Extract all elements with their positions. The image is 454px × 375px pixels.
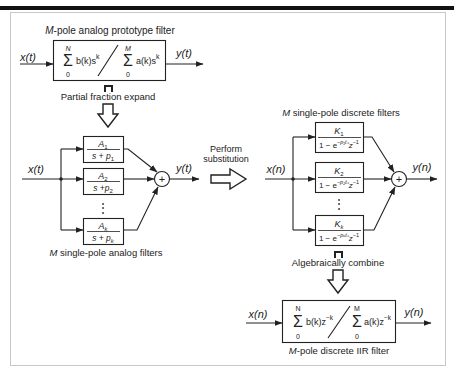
den-sum-upper: M (354, 305, 360, 312)
algebraic-combine-label: Algebraically combine (292, 257, 384, 268)
right-arrow-icon (211, 169, 246, 189)
num-sum-lower: 0 (296, 333, 300, 340)
num-sum-lower: 0 (66, 71, 70, 78)
analog-bank-caption: M single-pole analog filters (49, 247, 162, 258)
iir-caption: M-pole discrete IIR filter (289, 345, 389, 356)
analog-filter-bank: x(t) A1 s + p1 A2 s +p2 ⋮ Ak s + pk + y(… (22, 137, 199, 259)
sum-wire-k (363, 187, 395, 230)
partial-fraction-step: Partial fraction expand (61, 86, 156, 127)
den-sum-lower: 0 (355, 333, 359, 340)
iir-input-label: x(n) (248, 308, 268, 320)
sigma-icon: Σ (63, 52, 73, 69)
prototype-output-label: y(t) (175, 47, 192, 59)
discrete-output-label: y(n) (412, 161, 432, 173)
sum-wire-1 (123, 149, 157, 172)
prototype-input-label: x(t) (19, 51, 36, 63)
filter-design-diagram: M-pole analog prototype filter x(t) N Σ … (0, 0, 454, 375)
plus-icon: + (159, 173, 165, 185)
split-node (59, 177, 63, 181)
plus-icon: + (396, 173, 402, 185)
discrete-bank-title: M single-pole discrete filters (282, 107, 400, 118)
iir-filter: x(n) N Σ 0 b(k)z−k M Σ 0 a(k)z−k y(n) M-… (246, 301, 431, 357)
discrete-filter-bank: M single-pole discrete filters x(n) K1 1… (265, 107, 437, 246)
sum-wire-1 (363, 137, 394, 172)
split-node (291, 177, 295, 181)
den-sum-lower: 0 (126, 71, 130, 78)
iir-output-label: y(n) (404, 306, 424, 318)
down-arrow-icon (98, 104, 118, 127)
den-sum-upper: M (125, 45, 131, 52)
prototype-filter: M-pole analog prototype filter x(t) N Σ … (19, 25, 203, 81)
sigma-icon: Σ (352, 313, 362, 330)
prototype-title: M-pole analog prototype filter (45, 25, 175, 36)
down-arrow-icon (328, 270, 348, 293)
algebraic-combine-step: Algebraically combine (292, 252, 384, 293)
substitution-label-line2: substitution (203, 154, 249, 164)
substitution-label-line1: Perform (210, 144, 242, 154)
ellipsis: ⋮ (333, 197, 345, 211)
ellipsis: ⋮ (97, 201, 109, 215)
num-sum-upper: N (295, 305, 300, 312)
discrete-input-label: x(n) (266, 163, 286, 175)
analog-input-label: x(t) (27, 163, 44, 175)
sum-wire-k (123, 187, 158, 230)
substitution-step: Perform substitution (203, 144, 249, 189)
analog-output-label: y(t) (175, 162, 192, 174)
sigma-icon: Σ (123, 52, 133, 69)
partial-fraction-label: Partial fraction expand (61, 91, 156, 102)
top-bar (0, 6, 454, 10)
sigma-icon: Σ (293, 313, 303, 330)
